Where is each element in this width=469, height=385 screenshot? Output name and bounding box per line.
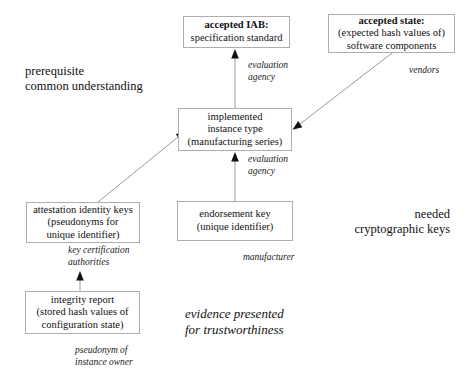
edge-label-key-certification-authorities: key certification authorities — [68, 245, 129, 268]
box-endorsement-line2: (unique identifier) — [197, 221, 274, 234]
box-accepted-iab[interactable]: accepted IAB: specification standard — [183, 16, 290, 48]
note-needed-cryptographic-keys: needed cryptographic keys — [310, 207, 450, 237]
edge-label-pseudonym-line1: pseudonym of — [75, 345, 133, 357]
box-accepted-state[interactable]: accepted state: (expected hash values of… — [328, 14, 455, 53]
box-endorsement-line1: endorsement key — [199, 208, 270, 221]
edge-label-key-certification-line2: authorities — [68, 257, 129, 269]
edge-label-key-certification-line1: key certification — [68, 245, 129, 257]
box-integrity-line1: integrity report — [51, 294, 114, 307]
box-accepted-iab-line2: specification standard — [191, 32, 283, 45]
box-attestation-identity-keys[interactable]: attestation identity keys (pseudonyms fo… — [26, 202, 140, 243]
box-instance-type-line3: (manufacturing series) — [188, 136, 283, 149]
edge-label-manufacturer-line1: manufacturer — [243, 252, 294, 264]
edge-state-to-instance — [300, 53, 392, 124]
diagram-canvas: accepted IAB: specification standard acc… — [0, 0, 469, 385]
edge-label-evaluation-agency-top: evaluation agency — [248, 60, 288, 83]
box-instance-type-line1: implemented — [208, 111, 263, 124]
box-integrity-line3: configuration state) — [42, 319, 124, 332]
box-attestation-line3: unique identifier) — [46, 229, 119, 242]
note-prerequisite-line2: common understanding — [25, 79, 143, 94]
note-prerequisite-line1: prerequisite — [25, 64, 143, 79]
edge-label-vendors-line1: vendors — [409, 65, 439, 77]
box-integrity-line2: (stored hash values of — [37, 306, 129, 319]
edge-label-pseudonym-line2: instance owner — [75, 357, 133, 369]
edge-label-manufacturer: manufacturer — [243, 252, 294, 264]
note-evidence-line2: for trustworthiness — [185, 322, 284, 338]
note-needed-line2: cryptographic keys — [310, 222, 450, 237]
box-attestation-line1: attestation identity keys — [33, 204, 133, 217]
arrowhead-state-to-instance — [293, 121, 303, 130]
note-evidence-presented-for-trustworthiness: evidence presented for trustworthiness — [185, 306, 284, 337]
box-instance-type[interactable]: implemented instance type (manufacturing… — [178, 108, 292, 151]
edge-label-evaluation-agency-mid: evaluation agency — [248, 154, 288, 177]
note-needed-line1: needed — [310, 207, 450, 222]
edge-label-vendors: vendors — [409, 65, 439, 77]
box-attestation-line2: (pseudonyms for — [48, 216, 119, 229]
edge-label-evaluation-agency-mid-line1: evaluation — [248, 154, 288, 166]
box-instance-type-line2: instance type — [207, 123, 262, 136]
edge-label-evaluation-agency-mid-line2: agency — [248, 166, 288, 178]
box-accepted-state-line1: accepted state: — [358, 15, 424, 28]
arrowhead-integrity-to-attestation — [76, 271, 84, 281]
arrowhead-endorsement-to-instance — [231, 152, 239, 162]
box-integrity-report[interactable]: integrity report (stored hash values of … — [25, 291, 140, 334]
note-evidence-line1: evidence presented — [185, 306, 284, 322]
box-accepted-state-line2: (expected hash values of) — [338, 27, 445, 40]
note-prerequisite-common-understanding: prerequisite common understanding — [25, 64, 143, 94]
arrowhead-instance-to-iab — [231, 49, 239, 59]
box-accepted-state-line3: software components — [347, 40, 437, 53]
edge-label-evaluation-agency-top-line1: evaluation — [248, 60, 288, 72]
box-endorsement-key[interactable]: endorsement key (unique identifier) — [177, 201, 293, 241]
edge-label-evaluation-agency-top-line2: agency — [248, 72, 288, 84]
edge-label-pseudonym-instance-owner: pseudonym of instance owner — [75, 345, 133, 368]
box-accepted-iab-line1: accepted IAB: — [205, 19, 269, 32]
edge-attestation-to-instance — [98, 137, 178, 202]
